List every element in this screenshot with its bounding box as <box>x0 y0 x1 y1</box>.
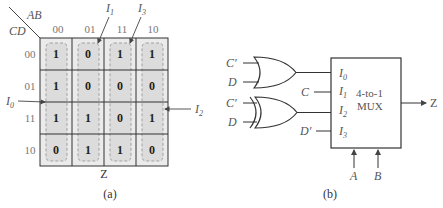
kmap-i1-label: I1 <box>105 1 114 17</box>
kmap-i0-label: I0 <box>5 94 14 110</box>
mux-title-line1: 4-to-1 <box>356 87 383 99</box>
kmap-cell: 1 <box>53 111 59 125</box>
kmap-cell: 0 <box>117 111 123 125</box>
kmap-col-header: 00 <box>53 23 65 35</box>
kmap-cell: 1 <box>149 47 155 61</box>
caption-a: (a) <box>103 187 116 201</box>
kmap-cell: 1 <box>149 111 155 125</box>
kmap-row-header: 11 <box>25 112 36 124</box>
mux-input-d-prime: D′ <box>299 124 312 138</box>
kmap-cell: 0 <box>85 79 91 93</box>
kmap-col-header: 10 <box>148 23 160 35</box>
caption-b: (b) <box>323 187 337 201</box>
karnaugh-map: AB CD 00 01 11 10 00 01 11 10 1 0 1 1 1 … <box>5 1 203 201</box>
kmap-row-header: 10 <box>25 144 37 156</box>
kmap-cell: 0 <box>85 47 91 61</box>
kmap-col-header: 11 <box>117 23 128 35</box>
kmap-col-header: 01 <box>85 23 96 35</box>
or-gate: C′ D <box>226 56 331 89</box>
kmap-cell: 1 <box>53 47 59 61</box>
xor-input-c-prime: C′ <box>226 96 237 110</box>
select-a-label: A <box>349 169 358 183</box>
kmap-cell: 1 <box>117 143 123 157</box>
select-b-label: B <box>374 169 382 183</box>
kmap-output-label: Z <box>100 167 107 181</box>
kmap-row-header: 01 <box>25 80 36 92</box>
or-input-d: D <box>227 75 237 89</box>
kmap-i3-label: I3 <box>137 1 146 17</box>
mux-title-line2: MUX <box>357 100 383 112</box>
kmap-row-var-label: CD <box>9 24 26 38</box>
mux-circuit: C′ D C′ D C D′ I0 I1 I2 I3 4-to-1 MUX Z <box>226 56 437 201</box>
kmap-cell: 1 <box>117 47 123 61</box>
kmap-i2-label: I2 <box>194 102 203 118</box>
kmap-cell: 1 <box>53 79 59 93</box>
mux-input-c: C <box>301 85 310 99</box>
or-input-c-prime: C′ <box>226 56 237 70</box>
kmap-col-var-label: AB <box>26 8 42 22</box>
kmap-cell: 1 <box>85 111 91 125</box>
kmap-cell: 0 <box>149 143 155 157</box>
kmap-row-header: 00 <box>25 48 37 60</box>
kmap-cell: 0 <box>149 79 155 93</box>
xor-gate: C′ D <box>226 96 331 129</box>
xor-input-d: D <box>227 115 237 129</box>
mux-output-label: Z <box>430 96 437 110</box>
kmap-cell: 0 <box>53 143 59 157</box>
kmap-cell: 0 <box>117 79 123 93</box>
kmap-cell: 1 <box>85 143 91 157</box>
